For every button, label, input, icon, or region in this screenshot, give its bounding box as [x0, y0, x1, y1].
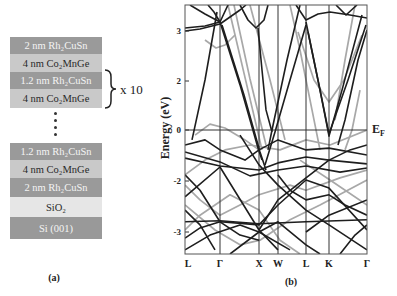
y-tick-label: -2 [174, 176, 182, 186]
repeat-brace-icon [105, 70, 116, 108]
y-tick-label: -3 [174, 227, 182, 237]
x-tick-label: Γ [364, 258, 370, 269]
x-tick-label: L [303, 258, 310, 269]
x-tick-label: K [325, 258, 333, 269]
panel-a-label: (a) [48, 272, 60, 283]
y-axis-label: Energy (eV) [158, 97, 173, 159]
y-axis-ticks [185, 31, 189, 232]
band-line [240, 5, 268, 28]
band-line [345, 90, 360, 150]
x-tick-label: Γ [217, 258, 223, 269]
band-line [192, 12, 217, 140]
panel-b-label: (b) [285, 276, 297, 287]
band-line [296, 5, 367, 20]
y-tick-label: 0 [177, 125, 182, 135]
band-line [234, 5, 266, 145]
y-tick-label: 2 [177, 76, 182, 86]
band-line [340, 225, 367, 254]
y-tick-label: 3 [177, 26, 182, 36]
x-tick-label: L [185, 258, 192, 269]
band-line [185, 220, 367, 224]
figure-graphics [0, 0, 397, 296]
band-line [195, 124, 259, 150]
fermi-level-label: EF [372, 122, 385, 138]
band-line [268, 5, 300, 150]
repeat-count-label: x 10 [120, 82, 143, 98]
x-tick-label: W [273, 258, 283, 269]
x-tick-label: X [255, 258, 262, 269]
